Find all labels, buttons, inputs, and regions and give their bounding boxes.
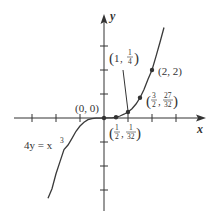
point-two-label: (2, 2) xyxy=(158,65,182,78)
svg-text:,: , xyxy=(120,52,123,64)
svg-text:4: 4 xyxy=(128,57,132,66)
origin-label: (0, 0) xyxy=(75,102,99,115)
cubic-curve-figure: x y (0, 0) (2, 2) ( 1 xyxy=(0,0,219,220)
point-origin xyxy=(102,116,106,120)
point-two xyxy=(150,68,154,72)
svg-text:1: 1 xyxy=(115,123,119,132)
equation-label: 4y = x 3 xyxy=(24,136,64,151)
svg-text:27: 27 xyxy=(164,91,172,100)
svg-text:2: 2 xyxy=(152,100,156,109)
svg-text:32: 32 xyxy=(164,100,172,109)
svg-text:): ) xyxy=(134,50,139,67)
svg-text:(: ( xyxy=(146,93,151,110)
svg-text:): ) xyxy=(136,125,141,142)
y-axis: y xyxy=(100,9,116,211)
point-one-label: ( 1 , 1 4 ) xyxy=(109,48,139,67)
point-half xyxy=(114,115,118,119)
svg-text:1: 1 xyxy=(129,123,133,132)
svg-text:32: 32 xyxy=(127,132,135,141)
svg-text:,: , xyxy=(121,127,124,139)
point-half-label: ( 1 2 , 1 32 ) xyxy=(109,123,141,142)
point-three-halves xyxy=(138,96,142,100)
point-three-halves-label: ( 3 2 , 27 32 ) xyxy=(146,91,178,110)
svg-text:(: ( xyxy=(109,125,114,142)
svg-text:1: 1 xyxy=(128,48,132,57)
x-axis-label: x xyxy=(196,122,203,136)
svg-text:3: 3 xyxy=(60,136,64,145)
svg-text:3: 3 xyxy=(152,91,156,100)
svg-text:,: , xyxy=(158,95,161,107)
leader-line xyxy=(123,70,128,111)
point-one xyxy=(126,110,130,114)
svg-text:): ) xyxy=(173,93,178,110)
y-axis-label: y xyxy=(108,9,116,23)
svg-text:1: 1 xyxy=(114,52,120,64)
cubic-curve xyxy=(48,28,164,199)
svg-text:4y = x: 4y = x xyxy=(24,139,53,151)
svg-text:2: 2 xyxy=(115,132,119,141)
